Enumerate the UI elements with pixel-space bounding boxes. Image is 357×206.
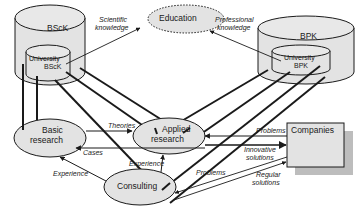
professional-knowledge-label-1: Professional	[215, 16, 254, 23]
companies-label: Companies	[291, 126, 334, 135]
problems-applied-label: Problems	[256, 127, 286, 134]
applied-research-label-1: Applied	[162, 125, 190, 134]
education-label: Education	[159, 14, 197, 23]
edge-experience-to-basic	[60, 157, 106, 181]
experience-applied-label: Experience	[129, 160, 164, 167]
regular-solutions-label-1: Regular	[256, 171, 281, 178]
university-bpk-label-1: University	[284, 54, 315, 61]
problems-consulting-label: Problems	[196, 169, 226, 176]
cases-label: Cases	[83, 149, 103, 156]
university-bsck-label-1: University	[29, 55, 60, 62]
scientific-knowledge-label-1: Scientific	[99, 16, 127, 23]
bpk-label: BPK	[300, 32, 317, 41]
regular-solutions-label-2: solutions	[252, 179, 280, 186]
scientific-knowledge-label-2: knowledge	[95, 24, 128, 31]
theories-label: Theories	[108, 122, 135, 129]
basic-research-label-2: research	[30, 136, 63, 145]
university-bsck-label-2: BScK	[44, 63, 62, 70]
applied-research-label-2: research	[151, 135, 184, 144]
professional-knowledge-label-2: knowledge	[217, 24, 250, 31]
innovative-solutions-label-1: Innovative	[244, 146, 276, 153]
basic-research-label-1: Basic	[42, 126, 63, 135]
consulting-label: Consulting	[117, 182, 157, 191]
bsck-label: BScK	[47, 24, 68, 33]
experience-basic-label: Experience	[53, 170, 88, 177]
innovative-solutions-label-2: solutions	[246, 154, 274, 161]
university-bpk-label-2: BPK	[294, 62, 308, 69]
